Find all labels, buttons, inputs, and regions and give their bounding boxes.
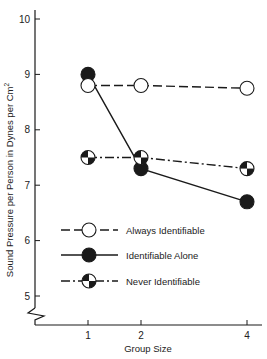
y-tick-label: 7 [24,180,30,191]
open-circle-marker-icon [240,81,254,95]
series-layer [81,67,254,208]
y-tick-label: 6 [24,235,30,246]
legend-label: Never Identifiable [126,276,200,287]
legend-label: Always Identifiable [126,225,205,236]
open-circle-marker-icon [81,78,95,92]
open-circle-marker-icon [134,78,148,92]
legend-item: Always Identifiable [61,223,205,237]
x-axis: 124 [35,320,262,341]
x-tick-label: 1 [85,330,91,341]
x-tick-label: 4 [244,330,250,341]
legend-label: Identifiable Alone [126,250,198,261]
y-axis-title: Sound Pressure per Person in Dynes per C… [3,83,15,278]
line-chart: 5678910 124 Group Size Sound Pressure pe… [0,0,267,359]
quartered-circle-marker-icon [81,151,95,165]
y-tick-label: 10 [19,14,31,25]
y-axis: 5678910 [19,10,44,325]
x-axis-title: Group Size [124,343,172,354]
x-tick-label: 2 [138,330,144,341]
y-tick-label: 5 [24,291,30,302]
legend-item: Identifiable Alone [61,248,198,262]
y-tick-label: 8 [24,124,30,135]
legend-item: Never Identifiable [61,274,200,288]
filled-circle-marker-icon [240,195,254,209]
open-circle-legend-icon [82,223,96,237]
series-line [88,85,247,88]
series-line [88,158,247,169]
quartered-circle-marker-icon [240,162,254,176]
legend: Always IdentifiableIdentifiable AloneNev… [61,223,205,288]
quartered-circle-legend-icon [82,274,96,288]
filled-circle-legend-icon [82,248,96,262]
axis-break-icon [28,308,44,325]
quartered-circle-marker-icon [134,151,148,165]
series-line [88,74,247,201]
y-tick-label: 9 [24,69,30,80]
